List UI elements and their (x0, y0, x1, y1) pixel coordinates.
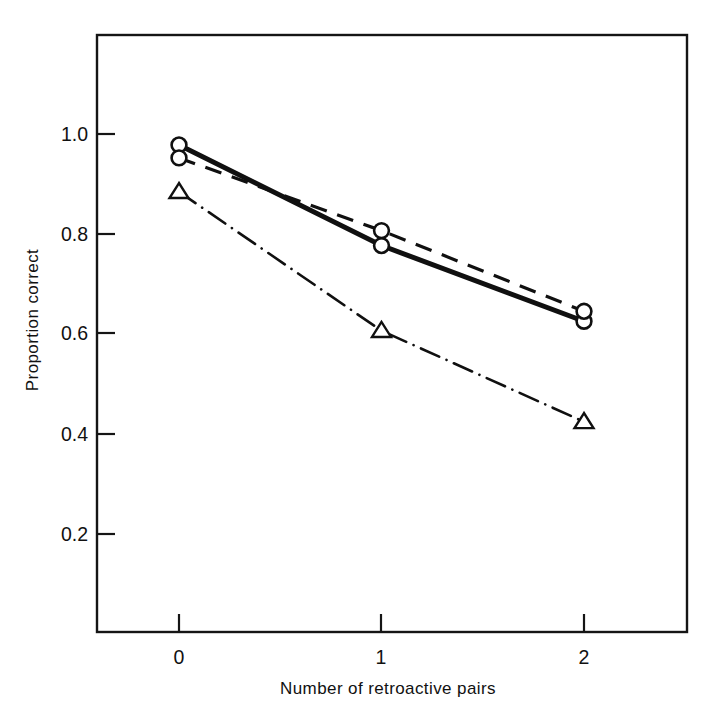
y-axis-tick-labels: 1.0 0.8 0.6 0.4 0.2 (61, 123, 88, 545)
marker-open-triangle-x2 (575, 413, 594, 428)
marker-open-triangle-x0 (170, 183, 189, 198)
marker-open-triangle-x1 (372, 322, 391, 337)
x-tick-label-1: 1 (376, 646, 387, 668)
marker-open-circle-x0 (172, 151, 187, 166)
marker-open-circle-x1 (374, 223, 389, 238)
series-dashdot-triangle-series (170, 183, 594, 428)
y-tick-label-0.4: 0.4 (61, 423, 88, 445)
x-axis-tick-labels: 0 1 2 (174, 646, 590, 668)
y-tick-label-0.6: 0.6 (61, 322, 88, 344)
x-tick-label-0: 0 (174, 646, 185, 668)
x-axis-ticks (179, 614, 584, 632)
x-tick-label-2: 2 (579, 646, 590, 668)
y-axis-title: Proportion correct (23, 249, 42, 391)
y-tick-label-0.2: 0.2 (61, 523, 88, 545)
data-series-layer (170, 138, 594, 429)
figure-container: 1.0 0.8 0.6 0.4 0.2 0 1 2 Number of retr… (0, 0, 719, 709)
series-dashed-circle-series (172, 151, 592, 319)
plot-frame (97, 35, 687, 632)
y-axis-ticks (97, 134, 115, 534)
y-tick-label-0.8: 0.8 (61, 223, 88, 245)
y-tick-label-1.0: 1.0 (61, 123, 88, 145)
line-chart: 1.0 0.8 0.6 0.4 0.2 0 1 2 Number of retr… (0, 0, 719, 709)
marker-open-circle-x2 (577, 304, 592, 319)
x-axis-title: Number of retroactive pairs (280, 679, 496, 698)
marker-open-circle-x1 (374, 238, 389, 253)
